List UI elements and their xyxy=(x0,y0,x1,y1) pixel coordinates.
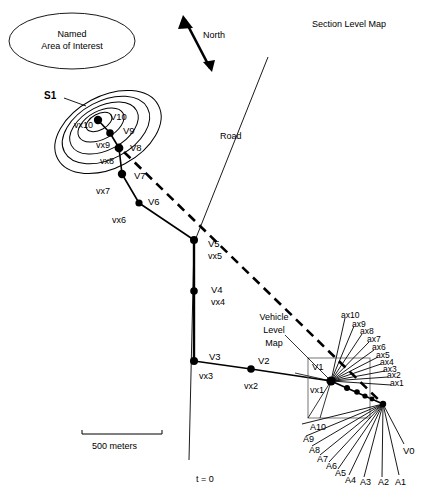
section-level-map-figure: Section Level Map Named Area of Interest… xyxy=(0,0,431,503)
north-label: North xyxy=(203,30,225,40)
node-label-v4: V4 xyxy=(211,285,223,296)
node-label-vx4: vx4 xyxy=(211,297,225,307)
road-label: Road xyxy=(220,131,242,141)
node-label-v7: V7 xyxy=(134,171,146,182)
area-label-a1: A1 xyxy=(395,477,406,487)
area-label-a4: A4 xyxy=(345,475,356,485)
node-label-vx9: vx9 xyxy=(96,140,110,150)
node-label-vx1: vx1 xyxy=(310,385,324,395)
area-label-a2: A2 xyxy=(378,477,389,487)
node-label-v2: V2 xyxy=(258,356,270,367)
area-label-a9: A9 xyxy=(303,434,314,444)
node-label-v1: V1 xyxy=(312,362,324,373)
vehicle-level-map-label: Vehicle Level Map xyxy=(244,311,304,350)
node-label-vx5: vx5 xyxy=(208,251,222,261)
area-label-a10: A10 xyxy=(310,422,326,432)
node-label-vx7: vx7 xyxy=(96,186,110,196)
scale-bar xyxy=(82,430,162,434)
time-label: t = 0 xyxy=(196,474,214,484)
node-label-v0: V0 xyxy=(403,446,415,457)
node-label-v5: V5 xyxy=(208,239,220,250)
vlm-line-2: Level xyxy=(244,324,304,337)
aoi-line-2: Area of Interest xyxy=(12,40,132,52)
area-label-a3: A3 xyxy=(360,477,371,487)
vlm-line-1: Vehicle xyxy=(244,311,304,324)
s1-leader-line xyxy=(64,98,86,106)
aoi-line-1: Named xyxy=(12,28,132,40)
node-label-vx2: vx2 xyxy=(244,381,258,391)
node-label-vx6: vx6 xyxy=(112,215,126,225)
area-sector-fan xyxy=(302,404,399,477)
road-line xyxy=(189,57,268,460)
page-title: Section Level Map xyxy=(312,19,386,29)
scale-bar-label: 500 meters xyxy=(92,441,137,451)
node-label-v9: V9 xyxy=(123,126,135,137)
node-label-v6: V6 xyxy=(148,197,160,208)
section-id-label: S1 xyxy=(44,90,56,102)
vlm-line-3: Map xyxy=(244,337,304,350)
node-label-vx10: vx10 xyxy=(74,120,93,130)
node-label-v8: V8 xyxy=(130,143,142,154)
named-area-of-interest-label: Named Area of Interest xyxy=(12,28,132,52)
v0-leader-line xyxy=(383,404,404,444)
node-label-v10: V10 xyxy=(110,112,127,123)
north-arrow-icon xyxy=(178,15,215,72)
node-label-vx3: vx3 xyxy=(199,371,213,381)
node-label-v3: V3 xyxy=(209,352,221,363)
node-label-vx8: vx8 xyxy=(100,156,114,166)
axle-label-ax1: ax1 xyxy=(390,379,404,389)
